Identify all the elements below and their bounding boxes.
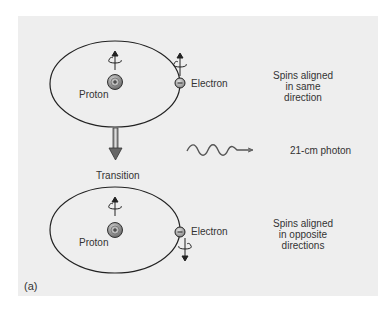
bottom-state-description: Spins aligned in opposite directions bbox=[248, 218, 358, 251]
electron-spin-down-icon bbox=[179, 238, 192, 261]
top-state-description: Spins aligned in same direction bbox=[248, 70, 358, 103]
electron-label-top: Electron bbox=[191, 78, 228, 89]
electron-icon bbox=[175, 227, 185, 237]
proton-icon bbox=[108, 75, 123, 90]
electron-label-bottom: Electron bbox=[191, 226, 228, 237]
proton-label-top: Proton bbox=[79, 89, 108, 100]
proton-spin-up-icon bbox=[109, 197, 122, 216]
hydrogen-spin-flip-diagram bbox=[0, 0, 389, 316]
electron-spin-up-icon bbox=[174, 53, 187, 76]
transition-label: Transition bbox=[96, 170, 140, 181]
proton-spin-up-icon bbox=[109, 51, 122, 70]
proton-icon bbox=[108, 223, 123, 238]
photon-label: 21-cm photon bbox=[290, 145, 351, 156]
proton-label-bottom: Proton bbox=[79, 237, 108, 248]
wavy-photon-icon bbox=[187, 145, 253, 156]
panel-label: (a) bbox=[24, 281, 37, 292]
down-arrow-icon bbox=[109, 128, 122, 160]
electron-icon bbox=[175, 78, 185, 88]
